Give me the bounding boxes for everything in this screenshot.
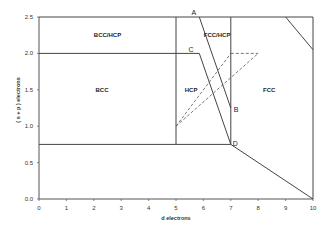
y-tick-label: 1.5: [25, 87, 34, 93]
region-label: FCC/HCP: [204, 32, 231, 38]
x-tick-label: 8: [257, 205, 261, 211]
x-tick-label: 10: [310, 205, 317, 211]
phase-boundary-line: [199, 53, 231, 144]
phase-boundary-line: [286, 17, 313, 50]
labels: BCC/HCPBCCHCPFCC/HCPFCCABCD: [94, 9, 276, 147]
y-tick-label: 2.5: [25, 14, 34, 20]
x-axis-title: d electrons: [161, 215, 190, 221]
region-label: HCP: [185, 87, 198, 93]
region-label: FCC: [263, 87, 276, 93]
x-tick-label: 5: [174, 205, 178, 211]
x-tick-label: 3: [120, 205, 124, 211]
x-tick-label: 2: [92, 205, 96, 211]
x-tick-label: 6: [202, 205, 206, 211]
point-label: A: [192, 9, 197, 16]
region-label: BCC: [96, 87, 110, 93]
y-axis-title: ( s + p ) electrons: [15, 77, 21, 122]
x-tick-label: 0: [37, 205, 41, 211]
x-tick-label: 7: [229, 205, 233, 211]
y-tick-label: 1.0: [25, 123, 34, 129]
point-label: C: [188, 46, 193, 53]
x-tick-label: 4: [147, 205, 151, 211]
x-tick-label: 9: [284, 205, 288, 211]
y-tick-label: 2.0: [25, 50, 34, 56]
phase-boundary-line: [199, 17, 231, 108]
phase-boundary-line: [231, 144, 313, 199]
y-tick-label: 0.0: [25, 196, 34, 202]
point-label: B: [234, 106, 239, 113]
phase-diagram-chart: 0123456789100.00.51.01.52.02.5d electron…: [0, 0, 332, 230]
point-label: D: [233, 140, 238, 147]
region-label: BCC/HCP: [94, 32, 121, 38]
axes: 0123456789100.00.51.01.52.02.5d electron…: [15, 14, 317, 221]
x-tick-label: 1: [65, 205, 69, 211]
boundary-lines: [39, 17, 313, 199]
y-tick-label: 0.5: [25, 160, 34, 166]
